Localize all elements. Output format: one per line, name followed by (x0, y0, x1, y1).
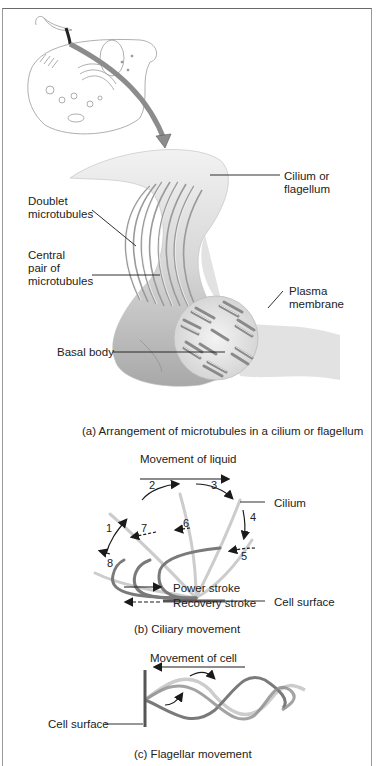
label-movement-of-liquid: Movement of liquid (140, 453, 237, 466)
caption-panel-c: (c) Flagellar movement (134, 748, 252, 761)
label-doublet-microtubules: Doubletmicrotubules (28, 195, 93, 221)
stroke-number: 5 (241, 550, 247, 563)
stroke-number: 1 (106, 522, 112, 535)
caption-panel-a: (a) Arrangement of microtubules in a cil… (82, 425, 363, 438)
stroke-number: 7 (141, 522, 147, 535)
label-movement-of-cell: Movement of cell (150, 652, 237, 665)
label-central-pair: Centralpair ofmicrotubules (28, 249, 93, 288)
stroke-number: 8 (107, 557, 113, 570)
stroke-number: 3 (211, 479, 217, 492)
caption-panel-b: (b) Ciliary movement (134, 623, 240, 636)
label-plasma-membrane: Plasmamembrane (289, 285, 344, 311)
cell-sketch (28, 16, 157, 134)
label-cilium: Cilium (274, 497, 306, 510)
label-cell-surface-c: Cell surface (48, 718, 109, 731)
panel-c-illustration (105, 667, 305, 727)
stroke-number: 4 (250, 511, 256, 524)
label-cilium-or-flagellum: Cilium orflagellum (284, 170, 330, 196)
label-cell-surface-b: Cell surface (274, 596, 335, 609)
label-power-stroke: Power stroke (173, 582, 240, 595)
stroke-number: 2 (149, 479, 155, 492)
label-basal-body: Basal body (57, 346, 114, 359)
label-recovery-stroke: Recovery stroke (173, 597, 256, 610)
stroke-number: 6 (183, 517, 189, 530)
